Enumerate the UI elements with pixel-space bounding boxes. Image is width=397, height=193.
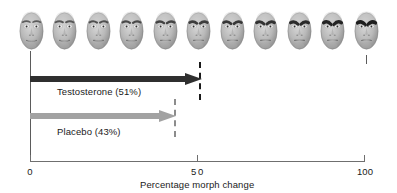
morph-face [351,6,382,56]
x-tick-0 [30,155,31,161]
connector-line-right [366,55,367,64]
morph-face [150,6,181,56]
morph-face [183,6,214,56]
face-morph-0-icon [16,6,47,56]
morph-face [217,6,248,56]
face-morph-40-icon [150,6,181,56]
face-morph-100-icon [351,6,382,56]
x-tick-label-50: 50 [186,166,210,177]
percentage-morph-change-figure: Testosterone (51%) Placebo (43%) 0 50 10… [0,0,397,193]
testosterone-label: Testosterone (51%) [57,86,141,97]
morph-face [284,6,315,56]
x-axis-title: Percentage morph change [140,179,254,190]
face-morph-60-icon [217,6,248,56]
testosterone-arrow [30,73,202,85]
face-morph-30-icon [116,6,147,56]
face-morph-90-icon [317,6,348,56]
face-morph-70-icon [250,6,281,56]
morph-face [49,6,80,56]
placebo-threshold-line [174,99,176,137]
x-axis-line [30,161,365,162]
x-tick-label-0: 0 [20,166,40,177]
morph-face-sequence [0,0,397,62]
morph-face [317,6,348,56]
connector-line-left [30,51,31,161]
x-tick-label-100: 100 [351,166,379,177]
morph-face [116,6,147,56]
face-morph-50-icon [183,6,214,56]
morph-face [16,6,47,56]
placebo-label: Placebo (43%) [57,126,121,137]
morph-face [250,6,281,56]
face-morph-20-icon [83,6,114,56]
placebo-arrow [30,110,176,122]
x-tick-50 [197,155,198,161]
morph-face [83,6,114,56]
testosterone-threshold-line [199,62,201,100]
face-morph-80-icon [284,6,315,56]
x-tick-100 [364,155,365,161]
face-morph-10-icon [49,6,80,56]
